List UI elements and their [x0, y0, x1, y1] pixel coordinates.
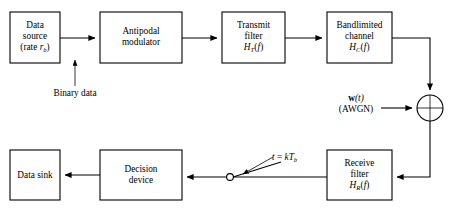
label-noise-source: w(t) (AWGN) [332, 93, 380, 115]
block-transmit-filter-outline [222, 12, 285, 63]
connector-channel-to-summing-junction [392, 38, 430, 90]
block-data-source-outline [10, 12, 60, 63]
diagram-canvas [0, 0, 453, 214]
sampler-contact-node [227, 174, 234, 181]
block-bandlimited-channel-outline [327, 12, 392, 63]
label-sampling-instant: t = kTb [272, 152, 332, 165]
block-decision-device-outline [100, 150, 182, 200]
noise-symbol-line: w(t) [332, 93, 380, 104]
connector-summing-junction-to-receive-filter [397, 121, 430, 177]
block-antipodal-modulator-outline [100, 12, 182, 63]
block-receive-filter-outline [327, 150, 392, 200]
block-diagram-figure: Data source (rate rb) Antipodal modulato… [0, 0, 453, 214]
noise-kind-line: (AWGN) [332, 104, 380, 115]
summing-junction [417, 95, 443, 121]
connector-sampler-to-decision-device [187, 162, 281, 177]
label-binary-data: Binary data [35, 88, 115, 99]
block-data-sink-outline [10, 150, 60, 200]
